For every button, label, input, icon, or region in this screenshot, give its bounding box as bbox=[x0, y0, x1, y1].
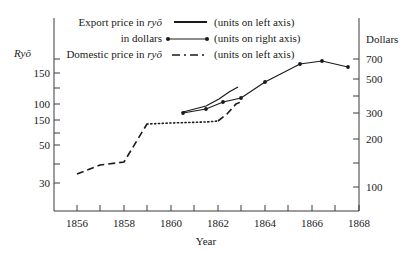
left-axis-ticklabels: 150 100 150 50 30 bbox=[34, 67, 51, 189]
right-tick-label-0: 700 bbox=[366, 53, 383, 65]
legend-label-italic: ryō bbox=[147, 48, 162, 60]
export-ryo-line bbox=[183, 87, 238, 112]
left-tick-label-4: 30 bbox=[39, 177, 51, 189]
x-tick-label-1858: 1858 bbox=[113, 217, 136, 229]
legend-units-domestic-ryo: (units on left axis) bbox=[214, 48, 295, 61]
legend-label-export-ryo: Export price in ryō bbox=[79, 16, 163, 28]
data-point-marker bbox=[320, 59, 324, 63]
left-axis-ticks bbox=[54, 59, 60, 183]
chart-figure: 150 100 150 50 30 Ryō 700 500 300 200 10… bbox=[0, 0, 410, 253]
right-tick-label-2: 300 bbox=[366, 107, 383, 119]
legend-label-text: Export price in bbox=[79, 16, 148, 28]
data-point-marker bbox=[204, 107, 208, 111]
legend-label-dollars: in dollars bbox=[121, 32, 162, 44]
x-tick-label-1868: 1868 bbox=[348, 217, 371, 229]
x-tick-label-1862: 1862 bbox=[207, 217, 229, 229]
legend-row-export-ryo: Export price in ryō (units on left axis) bbox=[79, 16, 295, 29]
legend-label-italic: ryō bbox=[147, 16, 162, 28]
right-tick-label-3: 200 bbox=[366, 133, 383, 145]
data-point-marker bbox=[346, 65, 350, 69]
legend-label-text: Domestic price in bbox=[66, 48, 147, 60]
domestic-dashed-segment-early bbox=[77, 124, 147, 174]
x-tick-label-1866: 1866 bbox=[301, 217, 324, 229]
legend-label-domestic-ryo: Domestic price in ryō bbox=[66, 48, 162, 60]
data-point-marker bbox=[181, 111, 185, 115]
x-tick-label-1860: 1860 bbox=[160, 217, 183, 229]
right-axis-ticklabels: 700 500 300 200 100 bbox=[366, 53, 383, 193]
data-point-marker bbox=[263, 80, 267, 84]
x-axis-ticks bbox=[77, 205, 359, 211]
x-tick-label-1856: 1856 bbox=[66, 217, 89, 229]
x-axis-title: Year bbox=[196, 235, 217, 247]
left-axis-title: Ryō bbox=[13, 47, 31, 59]
series-export-price-ryo bbox=[183, 87, 238, 112]
domestic-dashed-segment-late bbox=[218, 101, 243, 121]
left-tick-label-1: 100 bbox=[34, 98, 51, 110]
chart-legend: Export price in ryō (units on left axis)… bbox=[66, 16, 300, 61]
left-tick-label-0: 150 bbox=[34, 67, 51, 79]
legend-sample-marker-left bbox=[166, 37, 170, 41]
legend-row-domestic-ryo: Domestic price in ryō (units on left axi… bbox=[66, 48, 294, 61]
left-tick-label-3: 50 bbox=[39, 139, 51, 151]
legend-units-export-ryo: (units on left axis) bbox=[214, 16, 295, 29]
right-tick-label-1: 500 bbox=[366, 73, 383, 85]
x-tick-label-1864: 1864 bbox=[254, 217, 277, 229]
price-chart-svg: 150 100 150 50 30 Ryō 700 500 300 200 10… bbox=[0, 0, 410, 253]
data-point-marker bbox=[298, 62, 302, 66]
legend-units-dollars: (units on right axis) bbox=[214, 32, 301, 45]
right-tick-label-4: 100 bbox=[366, 181, 383, 193]
series-export-price-dollars bbox=[181, 59, 350, 115]
axis-frame bbox=[54, 18, 359, 211]
legend-sample-marker-right bbox=[205, 37, 209, 41]
legend-row-dollars: in dollars (units on right axis) bbox=[121, 32, 301, 45]
x-axis-ticklabels: 1856 1858 1860 1862 1864 1866 1868 bbox=[66, 217, 371, 229]
series-domestic-price bbox=[77, 101, 243, 174]
right-axis-ticks bbox=[353, 59, 359, 187]
right-axis-title: Dollars bbox=[366, 33, 398, 45]
data-point-marker bbox=[239, 96, 243, 100]
domestic-dotted-segment bbox=[147, 121, 218, 124]
left-tick-label-2: 150 bbox=[34, 114, 51, 126]
data-point-marker bbox=[221, 100, 225, 104]
